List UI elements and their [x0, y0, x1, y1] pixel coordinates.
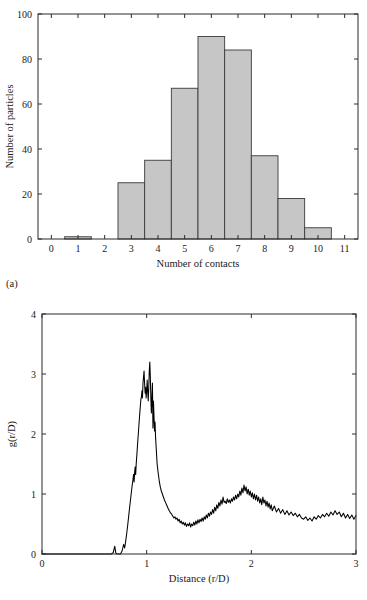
panel-a-histogram: 01234567891011 020406080100 Number of co… [0, 0, 367, 300]
histogram-x-tick-label: 6 [209, 243, 214, 254]
histogram-x-tick-label: 4 [156, 243, 161, 254]
rdf-x-axis-title: Distance (r/D) [169, 573, 230, 585]
histogram-bars [65, 37, 332, 240]
histogram-y-tick-label: 100 [17, 9, 32, 20]
histogram-x-tick-label: 1 [76, 243, 81, 254]
histogram-x-tick-label: 5 [182, 243, 187, 254]
panel-b-rdf-plot: 0123 01234 Distance (r/D) g(r/D) (b) [0, 300, 367, 600]
histogram-x-tick-label: 2 [102, 243, 107, 254]
histogram-y-tick-label: 80 [22, 54, 32, 65]
rdf-y-tick-label: 2 [31, 429, 36, 440]
rdf-curve [42, 362, 356, 554]
rdf-y-axis-title: g(r/D) [6, 420, 18, 447]
histogram-y-tick-label: 60 [22, 99, 32, 110]
histogram-y-tick-labels: 020406080100 [17, 9, 32, 245]
histogram-bar [278, 199, 305, 240]
histogram-bar [251, 156, 278, 239]
histogram-bar [198, 37, 225, 240]
histogram-bar [118, 183, 145, 239]
histogram-x-tick-label: 8 [262, 243, 267, 254]
histogram-y-axis-title: Number of particles [4, 85, 15, 169]
histogram-svg: 01234567891011 020406080100 Number of co… [0, 0, 367, 300]
rdf-x-tick-label: 0 [40, 558, 45, 569]
rdf-x-tick-label: 2 [249, 558, 254, 569]
histogram-bar [145, 160, 172, 239]
panel-a-label: (a) [6, 278, 18, 289]
histogram-y-tick-label: 20 [22, 189, 32, 200]
histogram-bar [225, 50, 252, 239]
histogram-x-tick-label: 7 [236, 243, 241, 254]
rdf-y-tick-label: 4 [31, 309, 36, 320]
histogram-x-tick-labels: 01234567891011 [49, 243, 350, 254]
histogram-x-tick-label: 11 [340, 243, 350, 254]
histogram-x-tick-label: 0 [49, 243, 54, 254]
figure-container: 01234567891011 020406080100 Number of co… [0, 0, 367, 600]
rdf-plot-frame [42, 314, 356, 554]
rdf-x-tick-label: 1 [144, 558, 149, 569]
histogram-x-tick-label: 9 [289, 243, 294, 254]
histogram-x-tick-label: 3 [129, 243, 134, 254]
rdf-x-tick-labels: 0123 [40, 558, 359, 569]
histogram-y-tick-label: 0 [27, 234, 32, 245]
histogram-x-tick-label: 10 [313, 243, 323, 254]
rdf-y-tick-label: 1 [31, 489, 36, 500]
rdf-y-tick-label: 0 [31, 549, 36, 560]
rdf-x-tick-label: 3 [354, 558, 359, 569]
histogram-x-axis-title: Number of contacts [157, 258, 240, 269]
histogram-bar [171, 88, 198, 239]
rdf-axes [42, 314, 356, 554]
rdf-y-tick-label: 3 [31, 369, 36, 380]
histogram-y-tick-label: 40 [22, 144, 32, 155]
rdf-svg: 0123 01234 Distance (r/D) g(r/D) [0, 300, 367, 600]
rdf-y-tick-labels: 01234 [31, 309, 36, 560]
